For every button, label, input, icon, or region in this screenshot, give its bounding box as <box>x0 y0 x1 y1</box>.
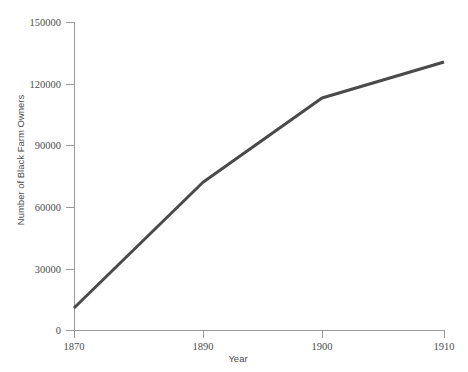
data-series-line <box>74 62 444 308</box>
y-axis-ticks <box>66 22 74 330</box>
y-tick-label-150000: 150000 <box>30 17 62 28</box>
x-tick-label-1890: 1890 <box>193 341 214 352</box>
y-tick-label-60000: 60000 <box>35 202 61 213</box>
x-tick-label-1910: 1910 <box>434 341 455 352</box>
y-tick-label-0: 0 <box>56 325 61 336</box>
y-axis-title: Number of Black Farm Owners <box>15 95 26 226</box>
y-tick-label-120000: 120000 <box>30 79 62 90</box>
x-axis-ticks <box>74 330 444 338</box>
line-chart: 0 30000 60000 90000 120000 150000 1870 1… <box>0 0 468 372</box>
y-tick-label-30000: 30000 <box>35 264 61 275</box>
x-axis-tick-labels: 1870 1890 1900 1910 <box>64 341 455 352</box>
y-tick-label-90000: 90000 <box>35 140 61 151</box>
x-tick-label-1870: 1870 <box>64 341 85 352</box>
x-tick-label-1900: 1900 <box>312 341 333 352</box>
chart-container: 0 30000 60000 90000 120000 150000 1870 1… <box>0 0 468 372</box>
x-axis-title: Year <box>228 353 247 364</box>
y-axis-tick-labels: 0 30000 60000 90000 120000 150000 <box>30 17 62 336</box>
